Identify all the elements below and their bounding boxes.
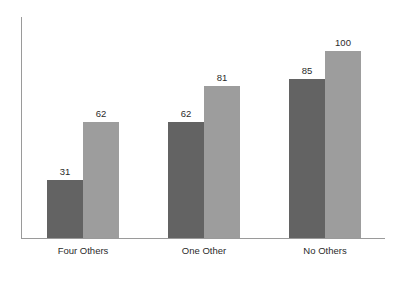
bar-group-no-others: 85 100	[289, 17, 361, 238]
x-axis-line	[21, 238, 385, 239]
bar-no-others-series-2: 100	[325, 51, 361, 238]
bar-value-label: 31	[60, 166, 71, 177]
plot-area: 31 62 62 81 85 100	[22, 17, 385, 238]
bar-one-other-series-1: 62	[168, 122, 204, 238]
x-tick-label-no-others: No Others	[270, 244, 380, 257]
x-axis-category-labels: Four Others One Other No Others	[22, 244, 385, 260]
bar-value-label: 85	[302, 65, 313, 76]
bar-value-label: 100	[335, 37, 351, 48]
bar-one-other-series-2: 81	[204, 86, 240, 238]
bar-four-others-series-2: 62	[83, 122, 119, 238]
bar-group-one-other: 62 81	[168, 17, 240, 238]
bar-value-label: 81	[217, 72, 228, 83]
x-tick-label-four-others: Four Others	[28, 244, 138, 257]
bar-value-label: 62	[181, 108, 192, 119]
bar-no-others-series-1: 85	[289, 79, 325, 238]
bar-chart: 31 62 62 81 85 100 Four Others One Other	[0, 0, 404, 284]
x-tick-label-one-other: One Other	[149, 244, 259, 257]
bar-value-label: 62	[96, 108, 107, 119]
bar-four-others-series-1: 31	[47, 180, 83, 238]
bar-group-four-others: 31 62	[47, 17, 119, 238]
